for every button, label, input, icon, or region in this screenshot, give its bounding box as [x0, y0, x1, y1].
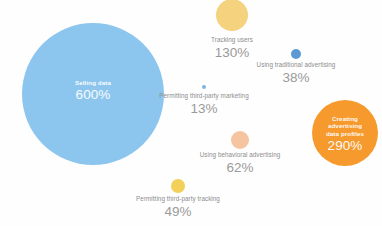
- bubble-using-behavioral-advertising[interactable]: [231, 131, 249, 149]
- label-using-traditional-advertising: Using traditional advertising 38%: [241, 61, 351, 86]
- label-value-permitting-third-party-marketing: 13%: [144, 101, 264, 118]
- label-text-permitting-third-party-marketing: Permitting third-party marketing: [144, 92, 264, 100]
- bubble-creating-advertising-data-profiles[interactable]: Creating advertising data profiles 290%: [312, 100, 378, 166]
- bubble-label-selling-data: Selling data: [22, 79, 164, 86]
- bubble-permitting-third-party-tracking[interactable]: [171, 179, 185, 193]
- label-value-permitting-third-party-tracking: 49%: [118, 204, 238, 221]
- label-permitting-third-party-tracking: Permitting third-party tracking 49%: [118, 195, 238, 220]
- bubble-label-creating-profiles-line1: Creating: [312, 115, 378, 122]
- label-value-using-behavioral-advertising: 62%: [185, 160, 295, 177]
- label-tracking-users: Tracking users 130%: [182, 36, 282, 61]
- label-using-behavioral-advertising: Using behavioral advertising 62%: [185, 151, 295, 176]
- label-text-using-traditional-advertising: Using traditional advertising: [241, 61, 351, 69]
- label-value-tracking-users: 130%: [182, 45, 282, 62]
- bubble-label-creating-profiles-line3: data profiles: [312, 130, 378, 137]
- label-text-using-behavioral-advertising: Using behavioral advertising: [185, 151, 295, 159]
- bubble-chart: Selling data 600% Creating advertising d…: [0, 0, 382, 226]
- label-value-using-traditional-advertising: 38%: [241, 70, 351, 87]
- bubble-value-selling-data: 600%: [22, 87, 164, 103]
- label-text-permitting-third-party-tracking: Permitting third-party tracking: [118, 195, 238, 203]
- bubble-permitting-third-party-marketing[interactable]: [202, 85, 206, 89]
- bubble-label-creating-profiles-line2: advertising: [312, 122, 378, 129]
- label-text-tracking-users: Tracking users: [182, 36, 282, 44]
- bubble-tracking-users[interactable]: [216, 0, 248, 31]
- bubble-value-creating-profiles: 290%: [312, 138, 378, 154]
- bubble-using-traditional-advertising[interactable]: [291, 49, 301, 59]
- bubble-selling-data[interactable]: Selling data 600%: [22, 23, 164, 165]
- label-permitting-third-party-marketing: Permitting third-party marketing 13%: [144, 92, 264, 117]
